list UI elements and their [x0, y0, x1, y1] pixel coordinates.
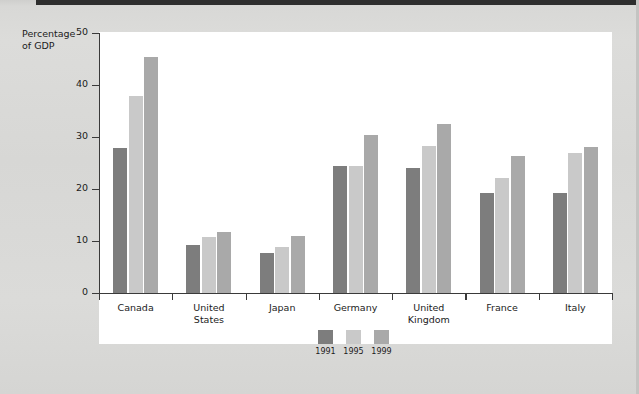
- x-category-label-line2: States: [172, 314, 245, 326]
- y-tick-label: 0: [66, 286, 88, 297]
- x-tick-mark: [539, 293, 540, 300]
- bar-united-states-1991: [186, 245, 200, 293]
- bar-germany-1999: [364, 135, 378, 293]
- bar-italy-1995: [568, 153, 582, 293]
- bar-japan-1991: [260, 253, 274, 293]
- x-tick-mark: [246, 293, 247, 300]
- bar-group: [480, 33, 525, 293]
- bar-united-states-1999: [217, 232, 231, 293]
- bar-france-1995: [495, 178, 509, 293]
- bar-united-kingdom-1995: [422, 146, 436, 293]
- legend-label-1991: 1991: [314, 347, 338, 356]
- y-tick-40: 40: [0, 85, 99, 86]
- x-category-label: France: [465, 302, 538, 314]
- bar-canada-1991: [113, 148, 127, 293]
- y-tick-20: 20: [0, 189, 99, 190]
- y-tick-label: 40: [66, 78, 88, 89]
- bar-italy-1999: [584, 147, 598, 293]
- x-category-label-line1: France: [465, 302, 538, 314]
- x-tick-mark: [465, 293, 466, 300]
- y-tick-50: 50: [0, 33, 99, 34]
- bar-germany-1991: [333, 166, 347, 293]
- y-tick-label: 30: [66, 130, 88, 141]
- x-category-label-line2: Kingdom: [392, 314, 465, 326]
- x-category-label-line1: Italy: [539, 302, 612, 314]
- legend-label-1995: 1995: [342, 347, 366, 356]
- bar-group: [333, 33, 378, 293]
- page-top-rule: [36, 0, 639, 5]
- bar-group: [186, 33, 231, 293]
- bar-japan-1999: [291, 236, 305, 293]
- bar-france-1999: [511, 156, 525, 293]
- y-tick-label: 50: [66, 26, 88, 37]
- x-category-label-line1: United: [392, 302, 465, 314]
- x-category-label-line1: Japan: [246, 302, 319, 314]
- bar-group: [553, 33, 598, 293]
- x-tick-mark: [172, 293, 173, 300]
- x-category-label: UnitedKingdom: [392, 302, 465, 325]
- x-category-label-line1: Canada: [99, 302, 172, 314]
- x-tick-mark: [392, 293, 393, 300]
- bar-canada-1999: [144, 57, 158, 293]
- y-tick-0: 0: [0, 293, 99, 294]
- x-category-label: Japan: [246, 302, 319, 314]
- legend-swatch-1999: [374, 330, 389, 344]
- bar-group: [113, 33, 158, 293]
- bar-japan-1995: [275, 247, 289, 293]
- x-axis-line: [99, 293, 612, 294]
- bar-united-kingdom-1991: [406, 168, 420, 293]
- x-category-label-line1: United: [172, 302, 245, 314]
- y-tick-label: 10: [66, 234, 88, 245]
- y-tick-10: 10: [0, 241, 99, 242]
- bar-canada-1995: [129, 96, 143, 293]
- y-tick-30: 30: [0, 137, 99, 138]
- legend-swatch-1991: [318, 330, 333, 344]
- x-tick-mark: [319, 293, 320, 300]
- x-category-label: Italy: [539, 302, 612, 314]
- y-axis-title-line2: of GDP: [22, 40, 92, 52]
- y-tick-label: 20: [66, 182, 88, 193]
- bar-united-states-1995: [202, 237, 216, 293]
- x-tick-mark: [612, 293, 613, 300]
- bar-italy-1991: [553, 193, 567, 293]
- legend-swatch-1995: [346, 330, 361, 344]
- x-category-label: Germany: [319, 302, 392, 314]
- x-category-label: Canada: [99, 302, 172, 314]
- bar-germany-1995: [349, 166, 363, 293]
- bar-groups: [99, 33, 612, 293]
- bar-group: [260, 33, 305, 293]
- bar-united-kingdom-1999: [437, 124, 451, 293]
- legend-label-1999: 1999: [370, 347, 394, 356]
- bar-france-1991: [480, 193, 494, 293]
- x-category-label: UnitedStates: [172, 302, 245, 325]
- x-tick-mark: [99, 293, 100, 300]
- bar-group: [406, 33, 451, 293]
- x-category-label-line1: Germany: [319, 302, 392, 314]
